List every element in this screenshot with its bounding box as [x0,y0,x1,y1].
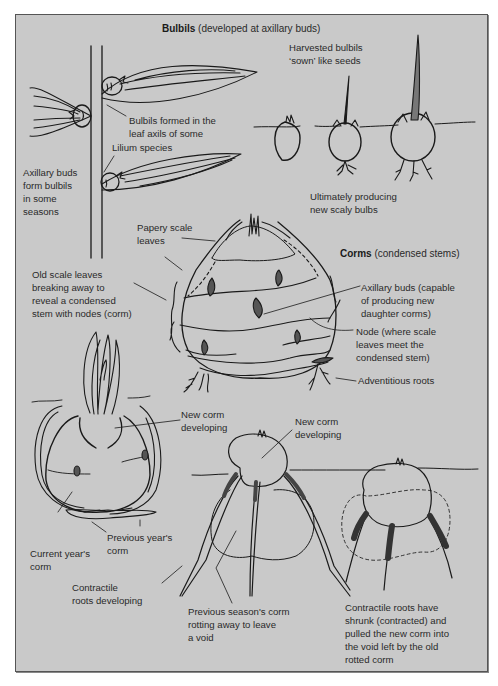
corms-heading-bold: Corms [340,248,372,259]
current-years-corm-label: Current year's corm [30,547,90,573]
axillary-buds-corm-label: Axillary buds (capable of producing new … [361,281,455,320]
bulbils-heading-rest: (developed at axillary buds) [195,23,320,34]
ultimately-producing-label: Ultimately producing new scaly bulbs [310,190,397,216]
papery-scale-leaves-label: Papery scale leaves [137,221,192,247]
new-corm-development-illustration [32,332,180,532]
previous-season-corm-label: Previous season's corm rotting away to l… [188,605,290,644]
new-corm-left-label: New corm developing [181,408,227,434]
node-label: Node (where scale leaves meet the conden… [356,325,436,364]
sown-bulbils-illustration [254,35,475,181]
leaf-axil-label: Bulbils formed in the leaf axils of some [129,114,216,140]
axillary-buds-bulbils-label: Axillary buds form bulbils in some seaso… [23,166,77,218]
contractile-roots-developing-label: Contractile roots developing [72,581,142,607]
adventitious-roots-label: Adventitious roots [358,374,434,387]
corms-heading-rest: (condensed stems) [372,248,460,259]
lilium-species-label: Lilium species [112,141,172,154]
harvested-bulbils-label: Harvested bulbils ‘sown’ like seeds [289,41,363,67]
contractile-roots-shrunk-label: Contractile roots have shrunk (contracte… [345,601,449,666]
old-scale-leaves-label: Old scale leaves breaking away to reveal… [32,268,132,320]
corms-heading: Corms (condensed stems) [340,247,460,260]
new-corm-mid-label: New corm developing [295,415,341,441]
bulbils-heading-bold: Bulbils [162,23,195,34]
previous-years-corm-label: Previous year's corm [107,531,172,557]
contracted-roots-illustration [342,458,452,590]
bulbils-heading: Bulbils (developed at axillary buds) [162,22,320,35]
